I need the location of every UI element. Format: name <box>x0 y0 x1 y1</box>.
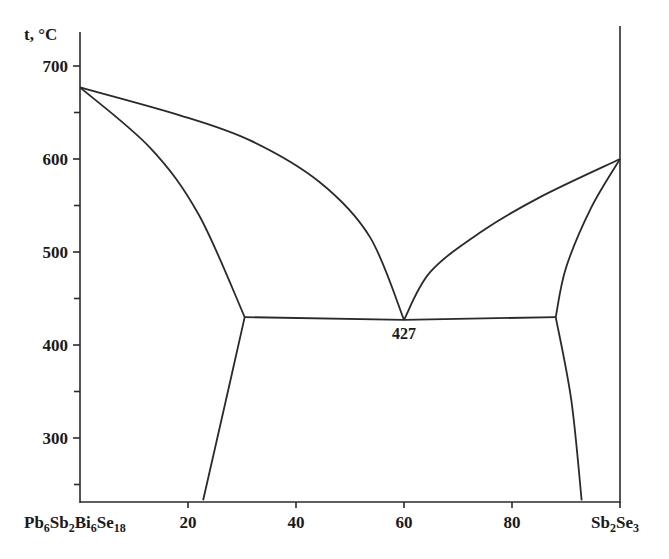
x-tick-label: 40 <box>288 513 305 532</box>
phase-curves <box>80 87 620 500</box>
y-tick-label: 300 <box>43 429 69 448</box>
y-tick-label: 500 <box>43 243 69 262</box>
x-right-component-label: Sb2​Se3​ <box>591 513 639 535</box>
x-tick-label: 20 <box>180 513 197 532</box>
eutectic-line-curve <box>245 317 556 320</box>
solvus-left-curve <box>203 317 245 500</box>
y-ticks: 700600500400300 <box>43 57 81 485</box>
y-tick-label: 700 <box>43 57 69 76</box>
solidus-right-curve <box>556 159 620 317</box>
liquidus-right-curve <box>404 159 620 320</box>
y-tick-label: 400 <box>43 336 69 355</box>
x-tick-label: 60 <box>396 513 413 532</box>
liquidus-left-curve <box>80 87 404 320</box>
x-ticks: 20406080 <box>180 502 621 532</box>
y-axis-label: t, °C <box>24 25 57 44</box>
phase-diagram: 700600500400300 20406080 t, °C 427 Pb6​S… <box>0 0 669 559</box>
eutectic-annotation: 427 <box>392 325 416 342</box>
solidus-left-curve <box>80 87 245 317</box>
y-tick-label: 600 <box>43 150 69 169</box>
x-tick-label: 80 <box>504 513 521 532</box>
x-left-component-label: Pb6​Sb2​Bi6​Se18​ <box>24 513 126 535</box>
solvus-right-curve <box>556 317 582 500</box>
